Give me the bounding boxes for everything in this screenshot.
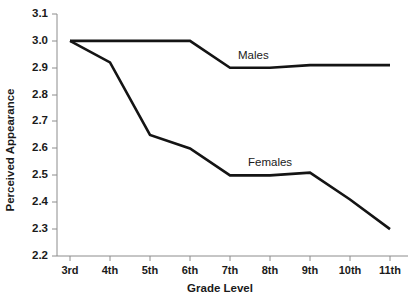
x-tick-label: 4th (102, 264, 119, 276)
x-tick-label: 10th (339, 264, 362, 276)
y-tick-label: 2.2 (32, 249, 48, 261)
chart-canvas: 3.1 3.0 2.9 2.8 2.7 2.6 2.5 2.4 2.3 2.2 … (0, 0, 416, 302)
x-tick-label: 8th (262, 264, 279, 276)
series-line-males (70, 41, 390, 68)
series-line-females (70, 41, 390, 229)
y-axis-title: Perceived Appearance (4, 89, 16, 212)
y-tick-label: 3.1 (32, 7, 49, 19)
x-tick-label: 6th (182, 264, 199, 276)
y-tick-label: 2.6 (32, 141, 48, 153)
x-axis-ticks (70, 256, 390, 261)
y-tick-label: 2.5 (32, 168, 49, 180)
series-label-males: Males (238, 49, 269, 61)
x-axis-title: Grade Level (187, 282, 253, 294)
y-axis-ticks (52, 14, 57, 256)
series-label-females: Females (248, 156, 292, 168)
y-tick-label: 2.4 (32, 195, 49, 207)
x-tick-label: 9th (302, 264, 319, 276)
y-tick-label: 2.9 (32, 61, 48, 73)
x-tick-label: 11th (379, 264, 401, 276)
y-tick-label: 2.3 (32, 222, 48, 234)
x-tick-label: 5th (142, 264, 159, 276)
y-tick-label: 2.7 (32, 114, 48, 126)
x-tick-label: 3rd (61, 264, 78, 276)
y-tick-label: 3.0 (32, 34, 48, 46)
y-tick-label: 2.8 (32, 88, 49, 100)
x-tick-label: 7th (222, 264, 239, 276)
line-chart: 3.1 3.0 2.9 2.8 2.7 2.6 2.5 2.4 2.3 2.2 … (0, 0, 416, 302)
